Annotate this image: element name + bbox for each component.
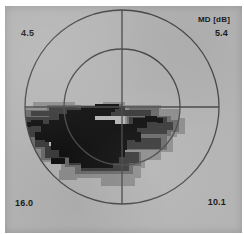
quadrant-value-inferior-left: 16.0 [15,198,33,208]
grayscale-plate: 4.5 MD [dB] 5.4 16.0 10.1 [5,6,242,233]
quadrant-value-inferior-right: 10.1 [208,197,226,207]
field-map-svg [5,6,242,233]
defect-pixel-layer [13,102,185,186]
quadrant-value-superior-right: 5.4 [215,28,228,38]
md-metric-title: MD [dB] [198,15,230,24]
quadrant-value-superior-left: 4.5 [21,28,34,38]
visual-field-plot: 4.5 MD [dB] 5.4 16.0 10.1 [0,0,244,234]
